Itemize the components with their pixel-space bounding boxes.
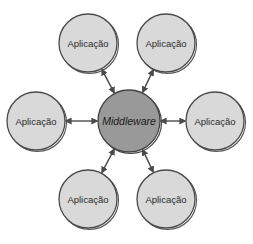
application-node: Aplicação (186, 92, 246, 152)
bidirectional-arrow (102, 70, 114, 93)
application-label: Aplicação (15, 116, 56, 127)
application-node: Aplicação (137, 14, 197, 74)
middleware-diagram: AplicaçãoAplicaçãoAplicaçãoAplicaçãoApli… (0, 0, 253, 244)
bidirectional-arrow (102, 149, 114, 172)
application-label: Aplicação (145, 38, 186, 49)
application-label: Aplicação (145, 194, 186, 205)
middleware-node: Middleware (98, 90, 162, 154)
application-node: Aplicação (7, 92, 67, 152)
middleware-label: Middleware (102, 115, 156, 127)
application-node: Aplicação (59, 170, 119, 230)
application-label: Aplicação (67, 38, 108, 49)
bidirectional-arrow (143, 150, 153, 172)
application-label: Aplicação (194, 116, 235, 127)
bidirectional-arrow (143, 70, 153, 92)
application-node: Aplicação (137, 170, 197, 230)
application-node: Aplicação (59, 14, 119, 74)
application-label: Aplicação (67, 194, 108, 205)
